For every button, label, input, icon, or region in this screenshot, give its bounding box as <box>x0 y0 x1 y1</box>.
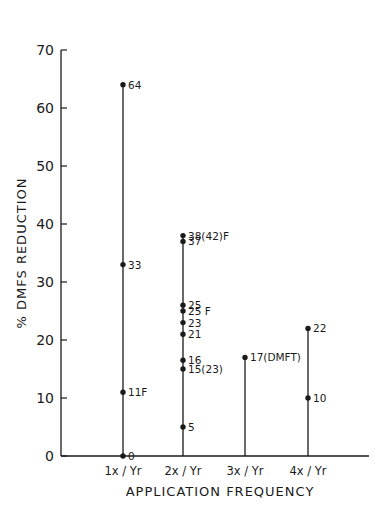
y-tick-label: 70 <box>36 42 54 58</box>
data-point <box>180 239 185 244</box>
stem-group: 17(DMFT) <box>242 351 301 456</box>
data-point <box>180 303 185 308</box>
data-point <box>120 82 125 87</box>
y-tick-label: 60 <box>36 100 54 116</box>
y-tick-label: 10 <box>36 390 54 406</box>
x-axis: 1x / Yr2x / Yr3x / Yr4x / Yr <box>61 456 369 478</box>
data-point <box>120 453 125 458</box>
stem-group: 643311F0 <box>120 79 147 462</box>
data-point-label: 17(DMFT) <box>250 351 301 363</box>
data-stems: 643311F038(42)F372525 F23211615(23)517(D… <box>120 79 326 462</box>
stem-group: 38(42)F372525 F23211615(23)5 <box>180 230 229 456</box>
data-point <box>242 355 247 360</box>
data-point-label: 23 <box>188 317 201 329</box>
x-category-label: 1x / Yr <box>104 464 141 478</box>
data-point-label: 5 <box>188 421 195 433</box>
y-tick-label: 30 <box>36 274 54 290</box>
data-point <box>180 358 185 363</box>
data-point-label: 10 <box>313 392 326 404</box>
x-category-label: 3x / Yr <box>226 464 263 478</box>
data-point <box>180 320 185 325</box>
data-point-label: 0 <box>128 450 135 462</box>
stem-group: 2210 <box>305 322 326 456</box>
data-point <box>180 308 185 313</box>
y-axis: 010203040506070 <box>36 42 67 464</box>
y-axis-title: % DMFS REDUCTION <box>14 178 29 329</box>
data-point-label: 25 F <box>188 305 211 317</box>
data-point <box>180 366 185 371</box>
data-point-label: 21 <box>188 328 201 340</box>
y-tick-label: 40 <box>36 216 54 232</box>
y-tick-label: 50 <box>36 158 54 174</box>
data-point-label: 33 <box>128 259 141 271</box>
x-category-label: 2x / Yr <box>164 464 201 478</box>
y-tick-label: 20 <box>36 332 54 348</box>
data-point-label: 15(23) <box>188 363 223 375</box>
y-tick-label: 0 <box>45 448 54 464</box>
data-point-label: 37 <box>188 235 201 247</box>
data-point <box>180 233 185 238</box>
x-category-label: 4x / Yr <box>289 464 326 478</box>
data-point <box>305 326 310 331</box>
data-point-label: 64 <box>128 79 142 91</box>
dmfs-reduction-chart: 010203040506070 1x / Yr2x / Yr3x / Yr4x … <box>0 0 382 507</box>
data-point-label: 22 <box>313 322 326 334</box>
data-point-label: 11F <box>128 386 147 398</box>
data-point <box>305 395 310 400</box>
data-point <box>180 332 185 337</box>
data-point <box>120 390 125 395</box>
data-point <box>180 424 185 429</box>
data-point <box>120 262 125 267</box>
x-axis-title: APPLICATION FREQUENCY <box>126 484 315 499</box>
